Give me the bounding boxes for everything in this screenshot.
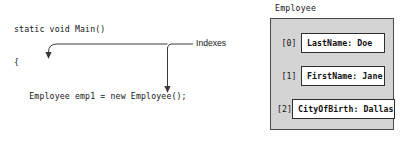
field-index-label: [0] — [277, 38, 301, 48]
indexer-diagram: static void Main() { Employee emp1 = new… — [0, 0, 412, 142]
indexes-annotation-label: Indexes — [196, 38, 226, 48]
code-line: Employee emp1 = new Employee(); — [14, 91, 204, 102]
field-index-label: [2] — [277, 104, 292, 114]
employee-field-row: [0] LastName: Doe — [271, 31, 393, 55]
code-line: { — [14, 57, 204, 68]
field-index-label: [1] — [277, 71, 301, 81]
code-snippet: static void Main() { Employee emp1 = new… — [14, 2, 204, 142]
field-value-box: LastName: Doe — [301, 33, 385, 53]
code-line — [14, 124, 204, 135]
field-value-box: CityOfBirth: Dallas — [292, 99, 395, 119]
employee-field-row: [2] CityOfBirth: Dallas — [271, 97, 393, 121]
field-value-box: FirstName: Jane — [301, 66, 385, 86]
employee-field-row: [1] FirstName: Jane — [271, 64, 393, 88]
code-line: static void Main() — [14, 24, 204, 35]
employee-panel-title: Employee — [275, 3, 316, 13]
employee-panel: [0] LastName: Doe [1] FirstName: Jane [2… — [270, 18, 394, 130]
